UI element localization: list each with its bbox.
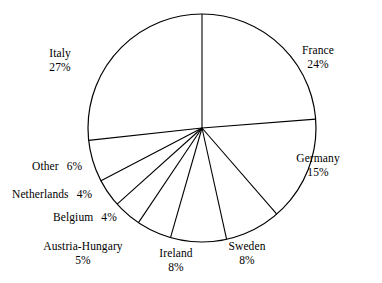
pie-label-sweden: Sweden 8% bbox=[228, 240, 265, 267]
pie-label-belgium-value: 4% bbox=[101, 211, 117, 223]
pie-label-sweden-value: 8% bbox=[228, 254, 265, 268]
pie-label-ireland-name: Ireland bbox=[159, 247, 192, 261]
pie-label-italy: Italy 27% bbox=[49, 47, 71, 74]
pie-label-france-value: 24% bbox=[302, 58, 334, 72]
pie-label-austria-hungary: Austria-Hungary 5% bbox=[43, 240, 122, 267]
pie-label-ireland-value: 8% bbox=[159, 261, 192, 275]
pie-label-germany-name: Germany bbox=[296, 152, 340, 166]
pie-label-france-name: France bbox=[302, 44, 334, 58]
pie-label-netherlands-value: 4% bbox=[77, 188, 93, 200]
pie-label-italy-name: Italy bbox=[49, 47, 71, 61]
pie-label-other: Other 6% bbox=[32, 160, 82, 174]
pie-label-italy-value: 27% bbox=[49, 61, 71, 75]
pie-label-other-name: Other bbox=[32, 160, 59, 172]
pie-label-ireland: Ireland 8% bbox=[159, 247, 192, 274]
pie-label-germany: Germany 15% bbox=[296, 152, 340, 179]
pie-label-austria-hungary-value: 5% bbox=[43, 254, 122, 268]
pie-label-austria-hungary-name: Austria-Hungary bbox=[43, 240, 122, 254]
pie-label-netherlands-name: Netherlands bbox=[12, 188, 69, 200]
pie-label-belgium: Belgium 4% bbox=[53, 211, 117, 225]
pie-label-germany-value: 15% bbox=[296, 166, 340, 180]
pie-label-france: France 24% bbox=[302, 44, 334, 71]
pie-label-netherlands: Netherlands 4% bbox=[12, 188, 92, 202]
pie-label-belgium-name: Belgium bbox=[53, 211, 93, 223]
pie-chart: France 24% Germany 15% Sweden 8% Ireland… bbox=[0, 0, 382, 283]
pie-label-sweden-name: Sweden bbox=[228, 240, 265, 254]
pie-label-other-value: 6% bbox=[67, 160, 83, 172]
